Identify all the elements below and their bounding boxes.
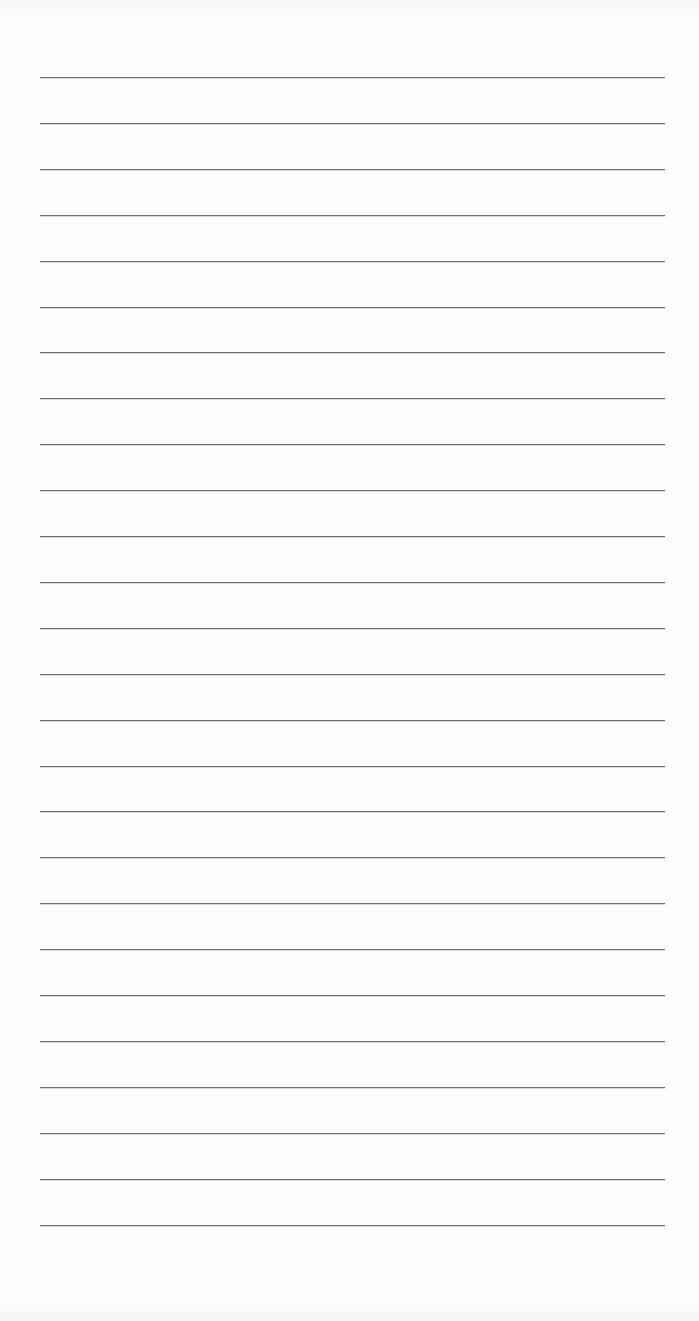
ruled-line <box>40 1041 665 1042</box>
ruled-line <box>40 536 665 537</box>
ruled-line <box>40 352 665 353</box>
ruled-line <box>40 1087 665 1088</box>
ruled-line <box>40 215 665 216</box>
ruled-line <box>40 123 665 124</box>
ruled-line <box>40 77 665 78</box>
ruled-line <box>40 949 665 950</box>
ruled-line <box>40 628 665 629</box>
ruled-line <box>40 261 665 262</box>
lined-paper-page <box>0 0 699 1321</box>
ruled-line <box>40 1179 665 1180</box>
ruled-line <box>40 398 665 399</box>
ruled-line <box>40 307 665 308</box>
ruled-line <box>40 490 665 491</box>
ruled-line <box>40 995 665 996</box>
ruled-line <box>40 766 665 767</box>
ruled-line <box>40 811 665 812</box>
ruled-line <box>40 1225 665 1226</box>
ruled-line <box>40 720 665 721</box>
ruled-line <box>40 169 665 170</box>
ruled-line <box>40 857 665 858</box>
ruled-line <box>40 1133 665 1134</box>
ruled-line <box>40 444 665 445</box>
ruled-line <box>40 582 665 583</box>
ruled-line <box>40 903 665 904</box>
ruled-line <box>40 674 665 675</box>
